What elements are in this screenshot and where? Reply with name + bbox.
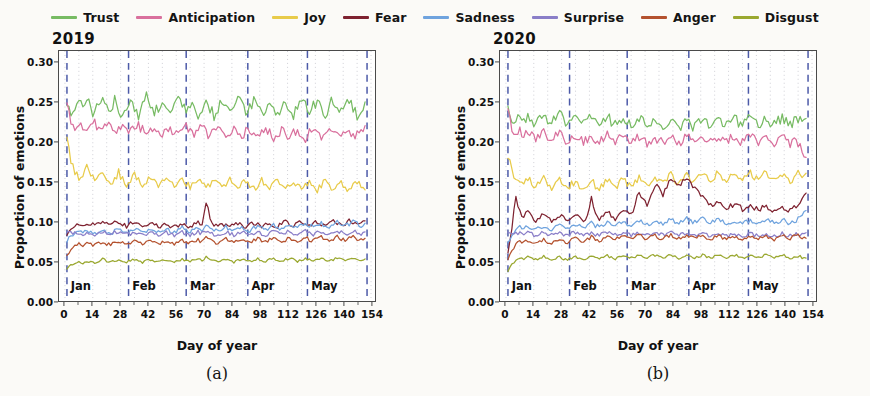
- x-tick-mark: [315, 302, 316, 306]
- legend-swatch-anger-icon: [641, 16, 667, 19]
- legend-label: Anticipation: [168, 10, 255, 25]
- y-tick-mark: [54, 221, 58, 222]
- series-canvas-a: [59, 51, 375, 301]
- x-axis-label-a: Day of year: [52, 338, 382, 353]
- month-label-may: May: [311, 279, 337, 293]
- chart-legend: TrustAnticipationJoyFearSadnessSurpriseA…: [0, 4, 870, 30]
- y-tick-mark: [495, 101, 499, 102]
- month-label-jan: Jan: [71, 279, 91, 293]
- x-tick-mark: [799, 302, 800, 305]
- x-tick-mark: [812, 302, 813, 306]
- month-label-feb: Feb: [573, 279, 596, 293]
- y-tick-label: 0.20: [468, 136, 494, 148]
- x-tick-label: 0: [501, 308, 508, 320]
- y-tick-label: 0.00: [468, 296, 494, 308]
- y-tick-label: 0.10: [27, 216, 53, 228]
- legend-swatch-joy-icon: [272, 16, 298, 19]
- legend-item-trust[interactable]: Trust: [51, 10, 119, 25]
- panel-2020: 2020 Proportion of emotions JanFebMarApr…: [433, 28, 870, 396]
- x-tick-label: 140: [774, 308, 796, 320]
- x-tick-mark: [616, 302, 617, 306]
- y-tick-mark: [495, 181, 499, 182]
- x-tick-mark: [330, 302, 331, 305]
- plot-frame-b: JanFebMarAprMay: [499, 50, 817, 302]
- legend-item-fear[interactable]: Fear: [343, 10, 407, 25]
- y-tick-label: 0.30: [468, 56, 494, 68]
- x-tick-label: 84: [666, 308, 681, 320]
- subfigure-caption-a: (a): [52, 364, 382, 383]
- x-tick-label: 42: [582, 308, 597, 320]
- x-tick-mark: [147, 302, 148, 306]
- series-line-anticipation: [67, 103, 365, 143]
- legend-item-sadness[interactable]: Sadness: [423, 10, 514, 25]
- emotion-timeseries-figure: TrustAnticipationJoyFearSadnessSurpriseA…: [0, 0, 870, 396]
- legend-item-surprise[interactable]: Surprise: [532, 10, 624, 25]
- x-tick-label: 84: [225, 308, 240, 320]
- x-tick-mark: [547, 302, 548, 305]
- y-tick-label: 0.05: [468, 256, 494, 268]
- x-tick-mark: [756, 302, 757, 306]
- legend-swatch-trust-icon: [51, 16, 77, 19]
- y-tick-mark: [54, 261, 58, 262]
- x-tick-mark: [715, 302, 716, 305]
- x-tick-mark: [784, 302, 785, 306]
- y-tick-label: 0.15: [27, 176, 53, 188]
- x-tick-mark: [644, 302, 645, 306]
- y-tick-label: 0.05: [27, 256, 53, 268]
- x-tick-label: 126: [305, 308, 327, 320]
- plot-frame-a: JanFebMarAprMay: [58, 50, 376, 302]
- x-tick-mark: [728, 302, 729, 306]
- lines-svg-a: [59, 51, 375, 301]
- x-tick-label: 28: [113, 308, 128, 320]
- x-tick-label: 140: [333, 308, 355, 320]
- month-label-apr: Apr: [252, 279, 275, 293]
- series-line-anger: [508, 234, 806, 260]
- x-tick-mark: [119, 302, 120, 306]
- series-line-joy: [508, 158, 806, 190]
- x-tick-mark: [287, 302, 288, 306]
- y-tick-label: 0.00: [27, 296, 53, 308]
- y-tick-mark: [54, 61, 58, 62]
- y-tick-label: 0.20: [27, 136, 53, 148]
- series-line-disgust: [508, 254, 806, 271]
- y-tick-mark: [54, 141, 58, 142]
- x-tick-mark: [659, 302, 660, 305]
- y-tick-label: 0.15: [468, 176, 494, 188]
- month-label-feb: Feb: [132, 279, 155, 293]
- legend-label: Sadness: [455, 10, 514, 25]
- legend-item-anticipation[interactable]: Anticipation: [136, 10, 255, 25]
- x-tick-mark: [190, 302, 191, 305]
- x-tick-label: 28: [554, 308, 569, 320]
- legend-swatch-disgust-icon: [733, 16, 759, 19]
- series-canvas-b: [500, 51, 816, 301]
- month-label-apr: Apr: [693, 279, 716, 293]
- legend-item-anger[interactable]: Anger: [641, 10, 716, 25]
- legend-label: Joy: [304, 10, 326, 25]
- x-tick-label: 112: [277, 308, 299, 320]
- x-tick-mark: [343, 302, 344, 306]
- y-tick-mark: [495, 141, 499, 142]
- x-tick-mark: [246, 302, 247, 305]
- x-tick-mark: [574, 302, 575, 305]
- y-tick-label: 0.10: [468, 216, 494, 228]
- plot-area-2019: JanFebMarAprMay 0.000.050.100.150.200.25…: [58, 50, 376, 302]
- legend-label: Anger: [673, 10, 716, 25]
- plot-area-2020: JanFebMarAprMay 0.000.050.100.150.200.25…: [499, 50, 817, 302]
- x-tick-mark: [91, 302, 92, 306]
- y-tick-mark: [495, 301, 499, 302]
- legend-swatch-anticipation-icon: [136, 16, 162, 19]
- x-axis-label-b: Day of year: [493, 338, 823, 353]
- x-tick-label: 0: [60, 308, 67, 320]
- x-tick-mark: [259, 302, 260, 306]
- y-tick-mark: [495, 61, 499, 62]
- legend-label: Trust: [83, 10, 119, 25]
- legend-label: Fear: [375, 10, 407, 25]
- series-line-disgust: [67, 256, 365, 269]
- y-tick-mark: [54, 301, 58, 302]
- legend-item-disgust[interactable]: Disgust: [733, 10, 819, 25]
- x-tick-mark: [203, 302, 204, 306]
- legend-item-joy[interactable]: Joy: [272, 10, 326, 25]
- legend-label: Disgust: [765, 10, 819, 25]
- series-line-fear: [67, 203, 365, 235]
- series-line-anticipation: [508, 109, 806, 158]
